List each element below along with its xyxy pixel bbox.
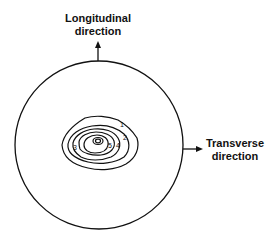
contours bbox=[62, 116, 138, 169]
contour-label-3: 3 bbox=[73, 144, 77, 151]
arrowhead-icon bbox=[196, 146, 203, 152]
contour-label-1: 1 bbox=[120, 121, 124, 128]
contour-label-4: 4 bbox=[116, 142, 120, 149]
arrowhead-icon bbox=[95, 41, 101, 48]
pole-figure: 1 2 3 4 5 bbox=[0, 0, 280, 251]
contour-label-2: 2 bbox=[123, 134, 127, 141]
contour-label-5: 5 bbox=[108, 142, 112, 149]
